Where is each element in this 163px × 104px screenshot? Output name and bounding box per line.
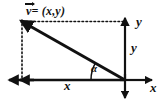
y-component-label: y — [131, 41, 137, 54]
angle-alpha-label: α — [91, 63, 97, 74]
x-axis-label: x — [150, 81, 157, 94]
x-component-label: x — [64, 79, 71, 92]
vector-overbar-arrow-icon — [25, 3, 34, 5]
vector-symbol-letter: v — [26, 4, 32, 18]
vector-symbol: v — [26, 3, 32, 17]
vector-diagram: v= (x,y) y y x x α — [0, 0, 163, 104]
vector-equation-text: = (x,y) — [32, 4, 66, 18]
vector-label: v= (x,y) — [26, 3, 65, 17]
y-axis-label: y — [136, 15, 142, 28]
vector-arrow — [21, 21, 125, 80]
